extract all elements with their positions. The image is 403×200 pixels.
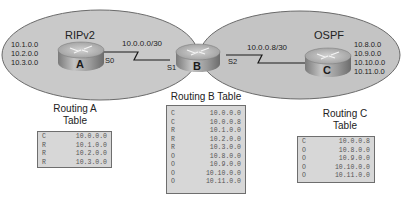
interface-s0-label: S0 <box>105 56 114 65</box>
network-label: 10.8.0.0 <box>354 40 385 49</box>
routing-c-table: C10.0.0.8 O10.8.0.0 O10.9.0.0 O10.10.0.0… <box>297 136 375 183</box>
interface-s1-label: S1 <box>167 63 176 72</box>
routing-a-table-title: Routing A Table <box>40 103 110 127</box>
table-row: R10.2.0.0 <box>38 150 111 159</box>
table-row: C10.0.0.0 <box>167 110 245 119</box>
table-row: C10.0.0.8 <box>167 119 245 128</box>
network-label: 10.2.0.0 <box>11 49 38 58</box>
router-c-label: C <box>323 64 331 76</box>
network-label: 10.9.0.0 <box>354 49 385 58</box>
table-row: O10.8.0.0 <box>298 147 374 156</box>
network-label: 10.3.0.0 <box>11 58 38 67</box>
routing-b-table-title: Routing B Table <box>165 91 247 103</box>
network-label: 10.10.0.0 <box>354 58 385 67</box>
routing-c-table-title: Routing C Table <box>305 108 385 132</box>
ospf-protocol-label: OSPF <box>314 29 344 41</box>
network-diagram: RIPv2 OSPF 10.1.0.0 10.2.0.0 10.3.0.0 10… <box>0 0 403 200</box>
link-bc-subnet: 10.0.0.8/30 <box>247 44 287 52</box>
table-row: R10.1.0.0 <box>38 142 111 151</box>
table-row: O10.10.0.0 <box>298 164 374 173</box>
interface-s2-label: S2 <box>228 57 237 66</box>
router-a-label: A <box>76 58 84 70</box>
table-row: O10.9.0.0 <box>167 161 245 170</box>
routing-b-table: C10.0.0.0 C10.0.0.8 R10.1.0.0 R10.2.0.0 … <box>166 105 246 194</box>
router-a-networks: 10.1.0.0 10.2.0.0 10.3.0.0 <box>11 40 38 67</box>
network-label: 10.11.0.0 <box>354 67 385 76</box>
link-ab-subnet: 10.0.0.0/30 <box>122 40 162 48</box>
table-row: C10.0.0.8 <box>298 138 374 147</box>
table-row: O10.9.0.0 <box>298 155 374 164</box>
network-label: 10.1.0.0 <box>11 40 38 49</box>
rip-protocol-label: RIPv2 <box>65 29 95 41</box>
table-row: R10.1.0.0 <box>167 127 245 136</box>
router-b-label: B <box>193 60 201 72</box>
router-c-networks: 10.8.0.0 10.9.0.0 10.10.0.0 10.11.0.0 <box>354 40 385 76</box>
table-row: O10.11.0.0 <box>298 172 374 181</box>
table-row: C10.0.0.0 <box>38 133 111 142</box>
table-row: R10.3.0.0 <box>167 144 245 153</box>
table-row: O10.10.0.0 <box>167 170 245 179</box>
table-row: R10.2.0.0 <box>167 136 245 145</box>
table-row: O10.11.0.0 <box>167 178 245 187</box>
table-row: R10.3.0.0 <box>38 159 111 168</box>
table-row: O10.8.0.0 <box>167 153 245 162</box>
routing-a-table: C10.0.0.0 R10.1.0.0 R10.2.0.0 R10.3.0.0 <box>37 131 112 168</box>
